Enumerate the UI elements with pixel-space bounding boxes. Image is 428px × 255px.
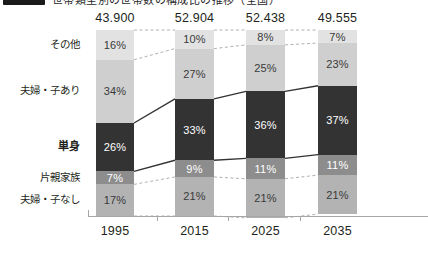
- title-badge: [3, 0, 45, 5]
- x-axis-tick: [228, 216, 229, 221]
- x-tick-label-2025: 2025: [229, 224, 303, 238]
- connector-line: [134, 49, 175, 60]
- segment-value-label: 7%: [107, 172, 123, 184]
- segment-value-label: 9%: [186, 163, 202, 175]
- segment-value-label: 21%: [254, 192, 277, 204]
- segment-value-label: 26%: [104, 141, 127, 153]
- segment-2015-夫婦・子なし[interactable]: 21%: [175, 177, 214, 216]
- segment-2015-夫婦・子あり[interactable]: 27%: [175, 49, 214, 99]
- segment-value-label: 33%: [183, 124, 206, 136]
- chart-container: 世帯類型別の世帯数の構成比の推移（全国） 43.90052.90452.4384…: [0, 0, 428, 255]
- connector-line: [134, 99, 175, 123]
- x-tick-label-2015: 2015: [158, 224, 232, 238]
- segment-value-label: 36%: [254, 119, 277, 131]
- plot-area: 16%34%26%7%17%10%27%33%9%21%8%25%36%11%2…: [0, 30, 428, 216]
- segment-2015-その他[interactable]: 10%: [175, 30, 214, 49]
- y-axis-cap: [88, 210, 89, 217]
- connector-line: [214, 158, 246, 160]
- x-axis-line: [88, 216, 428, 217]
- connector-ribbons: [0, 30, 428, 216]
- x-axis-labels: 1995201520252035: [0, 224, 428, 244]
- segment-2025-片親家族[interactable]: 11%: [246, 158, 285, 178]
- segment-value-label: 21%: [183, 190, 206, 202]
- segment-value-label: 11%: [255, 163, 277, 175]
- connector-line: [134, 160, 175, 171]
- connector-line: [285, 155, 318, 159]
- segment-value-label: 21%: [326, 189, 349, 201]
- bar-1995[interactable]: 16%34%26%7%17%: [96, 30, 134, 216]
- segment-1995-その他[interactable]: 16%: [96, 30, 134, 60]
- segment-2035-夫婦・子あり[interactable]: 23%: [318, 43, 357, 86]
- segment-2025-夫婦・子あり[interactable]: 25%: [246, 45, 285, 92]
- connector-line: [285, 175, 318, 179]
- segment-2025-単身[interactable]: 36%: [246, 91, 285, 158]
- connector-line: [285, 86, 318, 92]
- segment-value-label: 8%: [257, 31, 273, 43]
- connector-line: [214, 91, 246, 98]
- segment-2035-単身[interactable]: 37%: [318, 86, 357, 155]
- segment-1995-単身[interactable]: 26%: [96, 123, 134, 171]
- bar-2015[interactable]: 10%27%33%9%21%: [175, 30, 214, 216]
- segment-1995-片親家族[interactable]: 7%: [96, 171, 134, 184]
- segment-value-label: 16%: [104, 39, 127, 51]
- bar-total-2025: 52.438: [229, 11, 303, 25]
- bar-totals-row: 43.90052.90452.43849.555: [0, 11, 428, 29]
- segment-value-label: 23%: [326, 58, 349, 70]
- bar-2025[interactable]: 8%25%36%11%21%: [246, 30, 285, 216]
- x-tick-label-1995: 1995: [78, 224, 152, 238]
- segment-2015-片親家族[interactable]: 9%: [175, 160, 214, 177]
- segment-2015-単身[interactable]: 33%: [175, 99, 214, 160]
- segment-value-label: 10%: [183, 33, 206, 45]
- segment-2035-片親家族[interactable]: 11%: [318, 155, 357, 175]
- segment-value-label: 7%: [329, 31, 345, 43]
- segment-value-label: 27%: [183, 68, 206, 80]
- x-axis-tick: [300, 216, 301, 221]
- chart-title-strip: 世帯類型別の世帯数の構成比の推移（全国）: [0, 0, 428, 7]
- segment-value-label: 11%: [327, 159, 349, 171]
- connector-line: [214, 45, 246, 49]
- x-axis-tick: [157, 216, 158, 221]
- connector-line: [214, 177, 246, 179]
- segment-2035-その他[interactable]: 7%: [318, 30, 357, 43]
- segment-2025-その他[interactable]: 8%: [246, 30, 285, 45]
- bar-total-2015: 52.904: [158, 11, 232, 25]
- bar-total-2035: 49.555: [301, 11, 375, 25]
- segment-value-label: 37%: [326, 114, 349, 126]
- segment-2025-夫婦・子なし[interactable]: 21%: [246, 179, 285, 218]
- bar-total-1995: 43.900: [78, 11, 152, 25]
- connector-line: [285, 43, 318, 45]
- segment-value-label: 34%: [104, 85, 127, 97]
- bar-2035[interactable]: 7%23%37%11%21%: [318, 30, 357, 216]
- page-title: 世帯類型別の世帯数の構成比の推移（全国）: [52, 0, 280, 7]
- segment-2035-夫婦・子なし[interactable]: 21%: [318, 175, 357, 214]
- segment-value-label: 25%: [254, 62, 277, 74]
- connector-line: [134, 177, 175, 184]
- segment-value-label: 17%: [104, 194, 127, 206]
- x-tick-label-2035: 2035: [301, 224, 375, 238]
- segment-1995-夫婦・子なし[interactable]: 17%: [96, 184, 134, 216]
- segment-1995-夫婦・子あり[interactable]: 34%: [96, 60, 134, 123]
